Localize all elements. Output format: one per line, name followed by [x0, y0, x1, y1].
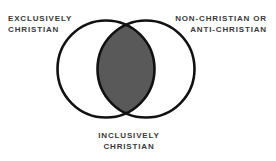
venn-diagram-canvas: EXCLUSIVELY CHRISTIAN NON-CHRISTIAN OR A…: [0, 0, 276, 161]
venn-label-inclusively-christian: INCLUSIVELY CHRISTIAN: [0, 131, 276, 152]
venn-label-non-christian-or-anti-christian: NON-CHRISTIAN OR ANTI-CHRISTIAN: [175, 14, 267, 35]
venn-label-exclusively-christian: EXCLUSIVELY CHRISTIAN: [8, 14, 72, 35]
